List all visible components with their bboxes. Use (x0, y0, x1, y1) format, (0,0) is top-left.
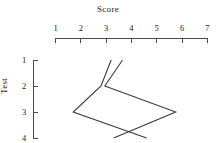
chart-figure: Score Test 1234567 1234 (0, 0, 217, 143)
x-axis (56, 38, 208, 43)
plot-area (0, 0, 217, 143)
y-axis (33, 60, 38, 138)
data-series (73, 60, 175, 138)
